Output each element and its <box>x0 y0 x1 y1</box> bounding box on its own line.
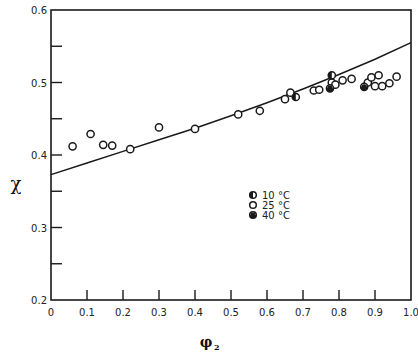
y-tick-label: 0.4 <box>31 150 47 161</box>
data-point <box>339 77 346 84</box>
marker-outline <box>235 111 242 118</box>
legend-label: 40 °C <box>262 210 290 221</box>
data-point <box>69 143 76 150</box>
x-tick-label: 0.4 <box>187 307 203 318</box>
marker-outline <box>375 72 382 79</box>
marker-outline <box>250 202 257 209</box>
data-points <box>69 72 400 153</box>
data-point <box>127 146 134 153</box>
marker-outline <box>348 75 355 82</box>
x-tick-label: 0.3 <box>151 307 167 318</box>
marker-outline <box>109 142 116 149</box>
marker-outline <box>69 143 76 150</box>
data-point <box>379 83 386 90</box>
x-axis-title: φ <box>200 334 213 350</box>
marker-fill-core <box>327 86 332 91</box>
x-tick-label: 0.9 <box>367 307 383 318</box>
data-point <box>235 111 242 118</box>
marker-outline <box>316 86 323 93</box>
plot-frame <box>51 10 411 300</box>
marker-outline <box>155 124 162 131</box>
x-tick-label: 0 <box>48 307 54 318</box>
marker-outline <box>256 107 263 114</box>
x-tick-label: 0.8 <box>331 307 347 318</box>
data-point <box>256 107 263 114</box>
data-point <box>250 192 257 199</box>
data-point <box>386 80 393 87</box>
tick-labels: 00.10.20.30.40.50.60.70.80.91.00.20.30.4… <box>31 5 418 318</box>
marker-fill-core <box>251 213 256 218</box>
data-point <box>316 86 323 93</box>
x-tick-label: 0.5 <box>223 307 239 318</box>
data-point <box>281 96 288 103</box>
data-point <box>292 93 299 100</box>
marker-outline <box>191 125 198 132</box>
data-point <box>100 141 107 148</box>
y-tick-label: 0.5 <box>31 78 47 89</box>
marker-outline <box>100 141 107 148</box>
data-point <box>371 83 378 90</box>
data-point <box>250 212 257 219</box>
data-point <box>393 73 400 80</box>
chart: 00.10.20.30.40.50.60.70.80.91.00.20.30.4… <box>0 0 418 354</box>
data-point <box>326 85 333 92</box>
marker-outline <box>339 77 346 84</box>
data-point <box>361 83 368 90</box>
x-tick-label: 0.1 <box>79 307 95 318</box>
x-tick-label: 0.6 <box>259 307 275 318</box>
x-tick-label: 1.0 <box>403 307 418 318</box>
y-tick-label: 0.3 <box>31 223 47 234</box>
data-point <box>250 202 257 209</box>
y-tick-label: 0.2 <box>31 295 47 306</box>
marker-outline <box>371 83 378 90</box>
marker-outline <box>393 73 400 80</box>
data-point <box>191 125 198 132</box>
marker-outline <box>281 96 288 103</box>
x-tick-label: 0.7 <box>295 307 311 318</box>
plot-border <box>51 10 411 300</box>
data-point <box>348 75 355 82</box>
data-point <box>87 130 94 137</box>
axis-titles: χφ2 <box>11 173 220 352</box>
marker-outline <box>87 130 94 137</box>
marker-fill-core <box>362 84 367 89</box>
legend: 10 °C25 °C40 °C <box>250 190 290 221</box>
axis-ticks <box>51 46 375 300</box>
marker-outline <box>379 83 386 90</box>
x-axis-title-subscript: 2 <box>214 342 220 352</box>
data-point <box>375 72 382 79</box>
marker-outline <box>386 80 393 87</box>
marker-outline <box>368 74 375 81</box>
marker-outline <box>127 146 134 153</box>
x-tick-label: 0.2 <box>115 307 131 318</box>
y-axis-title: χ <box>11 173 22 194</box>
fit-curve <box>51 43 411 175</box>
data-point <box>328 72 335 79</box>
data-point <box>155 124 162 131</box>
fit-curve-line <box>51 43 411 175</box>
data-point <box>109 142 116 149</box>
y-tick-label: 0.6 <box>31 5 47 16</box>
data-point <box>368 74 375 81</box>
